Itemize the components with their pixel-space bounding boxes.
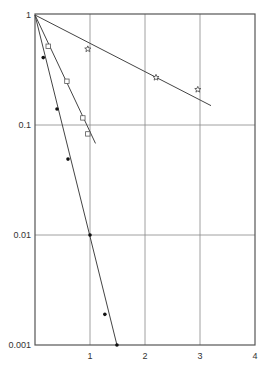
y-tick-label: 0.1	[18, 120, 31, 130]
filled-circle-marker	[103, 313, 107, 317]
filled-circle-marker	[88, 233, 92, 237]
fit-lines	[35, 15, 211, 345]
chart: 10.10.010.001 1234	[0, 0, 270, 367]
x-tick-label: 2	[142, 351, 147, 361]
filled-circle-marker	[66, 157, 70, 161]
star-marker	[153, 74, 159, 80]
gridlines	[35, 14, 255, 345]
filled-circle-marker	[115, 343, 119, 347]
filled-circle-marker	[55, 107, 59, 111]
x-tick-label: 1	[87, 351, 92, 361]
data-points	[41, 44, 200, 347]
y-tick-label: 0.01	[13, 230, 31, 240]
y-axis-tick-labels: 10.10.010.001	[8, 10, 31, 350]
fit-line	[35, 15, 117, 345]
x-axis-tick-labels: 1234	[87, 351, 257, 361]
y-tick-label: 0.001	[8, 340, 31, 350]
open-square-marker	[65, 79, 69, 83]
x-tick-label: 3	[197, 351, 202, 361]
open-square-marker	[86, 132, 90, 136]
fit-line	[35, 15, 211, 106]
y-tick-label: 1	[26, 10, 31, 20]
filled-circle-marker	[41, 56, 45, 60]
x-tick-label: 4	[252, 351, 257, 361]
open-square-marker	[46, 44, 50, 48]
open-square-marker	[81, 116, 85, 120]
